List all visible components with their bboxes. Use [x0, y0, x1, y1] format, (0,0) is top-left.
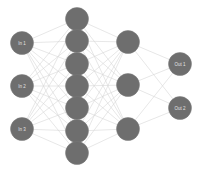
hidden-2-node-3: [117, 118, 140, 141]
input-node-1: In 1: [11, 32, 34, 55]
hidden-2-node-1: [117, 31, 140, 54]
node-label: In 1: [18, 41, 26, 46]
hidden-2-node-2: [117, 74, 140, 97]
hidden-1-node-3: [66, 53, 89, 76]
node-label: In 2: [18, 84, 26, 89]
hidden-1-node-6: [66, 120, 89, 143]
edge-group: [22, 19, 180, 153]
neural-network-diagram: In 1In 2In 3Out 1Out 2: [0, 0, 203, 175]
output-node-2: Out 2: [169, 97, 192, 120]
node-circle: [66, 120, 89, 143]
node-circle: [117, 74, 140, 97]
node-label: Out 2: [174, 106, 186, 111]
node-circle: [66, 8, 89, 31]
hidden-1-node-2: [66, 30, 89, 53]
node-circle: [66, 142, 89, 165]
edge-hidden-2-3-to-output-1: [128, 64, 180, 129]
node-circle: [66, 30, 89, 53]
hidden-1-node-5: [66, 97, 89, 120]
hidden-1-node-4: [66, 75, 89, 98]
input-node-2: In 2: [11, 75, 34, 98]
hidden-1-node-1: [66, 8, 89, 31]
input-node-3: In 3: [11, 118, 34, 141]
node-circle: [66, 97, 89, 120]
hidden-1-node-7: [66, 142, 89, 165]
node-circle: [117, 31, 140, 54]
node-circle: [66, 53, 89, 76]
node-circle: [117, 118, 140, 141]
output-node-1: Out 1: [169, 53, 192, 76]
node-label: In 3: [18, 127, 26, 132]
neural-network-canvas: In 1In 2In 3Out 1Out 2: [0, 0, 203, 175]
edge-hidden-2-1-to-output-2: [128, 42, 180, 108]
node-label: Out 1: [174, 62, 186, 67]
node-circle: [66, 75, 89, 98]
